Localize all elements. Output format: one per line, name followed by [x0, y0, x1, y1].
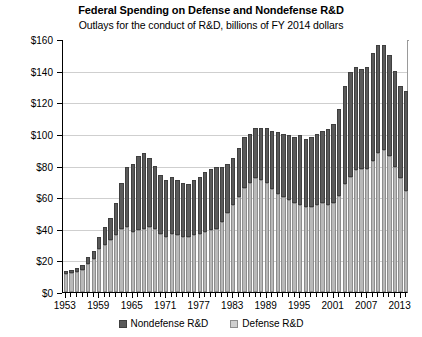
bar-segment-nondefense: [265, 128, 269, 183]
bar-segment-defense: [259, 180, 263, 292]
bar-segment-defense: [270, 189, 274, 292]
bar-stack: [181, 183, 185, 292]
bar-segment-nondefense: [170, 177, 174, 234]
bar-segment-nondefense: [270, 131, 274, 190]
bar-segment-nondefense: [292, 137, 296, 203]
x-axis-tick: [171, 293, 172, 297]
bar-segment-nondefense: [131, 164, 135, 232]
y-axis-tick-label: $80: [36, 161, 53, 172]
legend-item[interactable]: Nondefense R&D: [119, 318, 209, 329]
x-axis-tick: [160, 293, 161, 297]
x-axis-tick: [271, 293, 272, 297]
bar-segment-defense: [198, 234, 202, 293]
x-axis-labels: 1953195919651971197719831989199520012007…: [0, 300, 422, 314]
bar-segment-defense: [80, 270, 84, 292]
x-axis-tick: [255, 293, 256, 297]
bar-stack: [404, 91, 408, 292]
bar-segment-nondefense: [136, 156, 140, 230]
bar-stack: [326, 129, 330, 292]
bar-segment-defense: [158, 234, 162, 293]
x-axis-tick: [137, 293, 138, 297]
bar-segment-defense: [119, 229, 123, 292]
bar-segment-defense: [231, 205, 235, 292]
x-axis-tick: [344, 293, 345, 297]
bar-segment-defense: [376, 153, 380, 292]
bar-segment-defense: [209, 230, 213, 292]
bar-segment-nondefense: [103, 227, 107, 244]
x-axis-tick: [109, 293, 110, 297]
bar-series-group: [63, 40, 407, 292]
bar-segment-defense: [92, 259, 96, 292]
bar-segment-nondefense: [320, 131, 324, 204]
x-axis-tick: [215, 293, 216, 297]
x-axis-tick: [316, 293, 317, 297]
y-axis-tick-label: $60: [36, 193, 53, 204]
bar-segment-nondefense: [198, 177, 202, 234]
bar-segment-nondefense: [387, 55, 391, 156]
x-axis-tick: [82, 293, 83, 297]
bar-stack: [387, 55, 391, 292]
bar-segment-nondefense: [365, 67, 369, 168]
bar-segment-defense: [181, 237, 185, 292]
bar-segment-defense: [398, 178, 402, 292]
bar-stack: [281, 134, 285, 292]
x-axis-tick: [305, 293, 306, 297]
bar-stack: [97, 237, 101, 292]
legend-label: Nondefense R&D: [131, 318, 209, 329]
bar-stack: [108, 218, 112, 292]
x-axis-tick-label: 1953: [54, 300, 76, 311]
bar-stack: [343, 86, 347, 292]
bar-stack: [198, 177, 202, 292]
bar-segment-defense: [136, 230, 140, 292]
bar-stack: [298, 135, 302, 292]
x-axis-tick: [98, 293, 99, 298]
bar-stack: [270, 131, 274, 292]
bar-segment-nondefense: [64, 271, 68, 273]
bar-stack: [292, 137, 296, 292]
x-axis-tick: [227, 293, 228, 297]
legend-item[interactable]: Defense R&D: [230, 318, 303, 329]
bar-segment-nondefense: [209, 169, 213, 231]
bar-segment-nondefense: [376, 45, 380, 153]
bar-stack: [203, 172, 207, 292]
bar-segment-nondefense: [164, 180, 168, 237]
x-axis-tick: [400, 293, 401, 298]
x-axis-tick-label: 1965: [121, 300, 143, 311]
y-axis-tick-label: $160: [31, 35, 53, 46]
x-axis-tick: [121, 293, 122, 297]
bar-stack: [114, 203, 118, 292]
bar-segment-defense: [97, 249, 101, 292]
x-axis-tick-label: 1989: [255, 300, 277, 311]
bar-stack: [398, 86, 402, 292]
bar-segment-defense: [298, 205, 302, 292]
x-axis-tick: [232, 293, 233, 298]
y-axis-labels: $0$20$40$60$80$100$120$140$160: [0, 0, 62, 337]
bar-segment-defense: [203, 232, 207, 292]
bar-segment-defense: [237, 197, 241, 292]
bar-stack: [125, 167, 129, 292]
bar-segment-defense: [114, 235, 118, 292]
y-axis-tick-label: $0: [42, 288, 53, 299]
bar-segment-nondefense: [69, 270, 73, 273]
bar-stack: [253, 128, 257, 292]
bar-segment-nondefense: [298, 135, 302, 205]
bar-segment-defense: [276, 194, 280, 292]
x-axis-tick: [277, 293, 278, 297]
x-axis-tick: [126, 293, 127, 297]
bar-stack: [220, 167, 224, 292]
bar-stack: [192, 180, 196, 292]
bar-segment-nondefense: [153, 166, 157, 229]
bar-stack: [371, 53, 375, 292]
bar-segment-nondefense: [114, 203, 118, 235]
bar-segment-defense: [220, 222, 224, 292]
bar-stack: [237, 148, 241, 292]
bar-stack: [153, 166, 157, 293]
bar-stack: [170, 177, 174, 292]
bar-segment-defense: [253, 178, 257, 292]
y-axis-tick-label: $140: [31, 66, 53, 77]
bar-segment-nondefense: [237, 148, 241, 197]
bar-segment-nondefense: [337, 109, 341, 196]
bar-stack: [175, 180, 179, 292]
bar-segment-defense: [103, 245, 107, 292]
bar-segment-defense: [170, 234, 174, 293]
